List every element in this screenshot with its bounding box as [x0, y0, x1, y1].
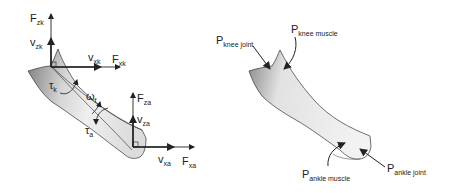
- right-shank-segment: [249, 50, 371, 159]
- label-p-knee-joint: Pknee joint: [216, 35, 253, 48]
- knee-joint-pointer: [253, 46, 270, 69]
- label-p-knee-muscle: Pknee muscle: [291, 24, 338, 37]
- label-f-zk: Fzk: [30, 13, 44, 26]
- label-f-xk: Fxk: [112, 54, 126, 67]
- label-tau-a: τa: [85, 125, 93, 138]
- label-omega-f: ωf: [86, 91, 97, 104]
- label-v-zk: vzk: [30, 37, 43, 50]
- label-f-za: Fza: [137, 93, 151, 106]
- label-v-xk: vxk: [88, 52, 101, 65]
- diagram-canvas: [0, 0, 451, 193]
- label-p-ankle-joint: Pankle joint: [387, 163, 426, 176]
- label-v-xa: vxa: [158, 154, 171, 167]
- label-f-xa: Fxa: [182, 156, 196, 169]
- label-v-za: vza: [137, 114, 150, 127]
- label-p-ankle-muscle: Pankle muscle: [302, 169, 350, 182]
- label-tau-k: τk: [49, 80, 57, 93]
